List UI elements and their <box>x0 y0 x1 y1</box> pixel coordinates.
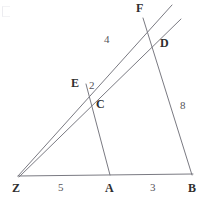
segment-zf-ray <box>18 5 172 176</box>
measure-label-ab: 3 <box>150 182 156 193</box>
measure-label-za: 5 <box>58 182 64 193</box>
point-label-e: E <box>71 77 79 89</box>
point-label-a: A <box>105 182 114 194</box>
point-label-z: Z <box>12 182 20 194</box>
point-label-f: F <box>136 2 143 14</box>
point-label-b: B <box>188 182 196 194</box>
geometry-figure: Z A B C E D F 5 3 8 4 2 <box>0 0 202 210</box>
point-label-c: C <box>96 98 105 110</box>
measure-label-db: 8 <box>180 100 186 111</box>
measure-label-ef: 4 <box>104 34 110 45</box>
segment-group <box>18 5 193 177</box>
segment-zb <box>18 174 193 176</box>
measure-label-ce: 2 <box>89 80 95 91</box>
point-label-d: D <box>160 37 169 49</box>
